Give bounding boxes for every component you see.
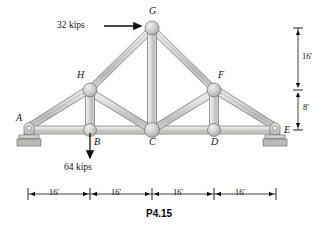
member-D-E xyxy=(214,126,276,134)
member-G-F xyxy=(152,24,214,94)
joint-label-G: G xyxy=(149,6,156,16)
load-label-64-kips: 64 kips xyxy=(64,163,92,173)
joint-F xyxy=(207,83,221,97)
load-label-32-kips: 32 kips xyxy=(57,21,85,31)
figure-truss-p415: A B C D E F G H 32 kips 64 kips 16' 8' 1… xyxy=(0,0,328,234)
figure-caption: P4.15 xyxy=(146,209,172,219)
joint-H xyxy=(83,83,97,97)
truss-members xyxy=(27,24,277,134)
joint-label-H: H xyxy=(77,70,84,80)
member-A-B xyxy=(28,126,90,134)
joint-D xyxy=(208,124,221,137)
dim-label-span-2: 16' xyxy=(111,188,121,197)
joint-label-F: F xyxy=(218,70,224,80)
member-A-H xyxy=(27,83,92,132)
dim-label-span-1: 16' xyxy=(49,188,59,197)
truss-drawing xyxy=(0,0,328,234)
joint-label-C: C xyxy=(149,137,156,147)
dim-label-span-3: 16' xyxy=(173,188,183,197)
member-H-G xyxy=(90,24,152,94)
joint-label-A: A xyxy=(16,113,22,123)
joint-label-E: E xyxy=(284,125,290,135)
member-G-C xyxy=(148,28,157,130)
dim-label-vertical-8ft: 8' xyxy=(303,103,309,112)
member-F-E xyxy=(212,83,277,132)
joint-G xyxy=(145,21,159,35)
joint-label-B: B xyxy=(94,137,100,147)
dim-label-vertical-16ft: 16' xyxy=(302,52,312,61)
vertical-dimension-line xyxy=(293,28,303,130)
joint-label-D: D xyxy=(211,137,218,147)
dim-label-span-4: 16' xyxy=(235,188,245,197)
